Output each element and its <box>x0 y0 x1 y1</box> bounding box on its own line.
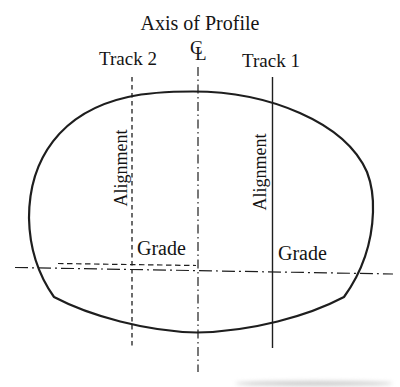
tunnel-profile-diagram: Axis of Profile C L Track 2 Track 1 Alig… <box>0 0 400 387</box>
track1-label: Track 1 <box>242 51 300 70</box>
track2-label: Track 2 <box>99 49 157 68</box>
grade-label-track1: Grade <box>278 243 327 263</box>
alignment-label-track2: Alignment <box>112 123 132 213</box>
track2-grade-dashed-line <box>58 264 196 266</box>
centerline-icon: C L <box>190 37 212 65</box>
diagram-title: Axis of Profile <box>100 13 300 33</box>
scan-artifact <box>235 381 393 386</box>
alignment-label-track1: Alignment <box>251 127 271 217</box>
tunnel-outline <box>29 92 373 333</box>
centerline-icon-l: L <box>195 43 207 65</box>
grade-label-track2: Grade <box>137 238 186 258</box>
grade-line <box>15 268 393 275</box>
